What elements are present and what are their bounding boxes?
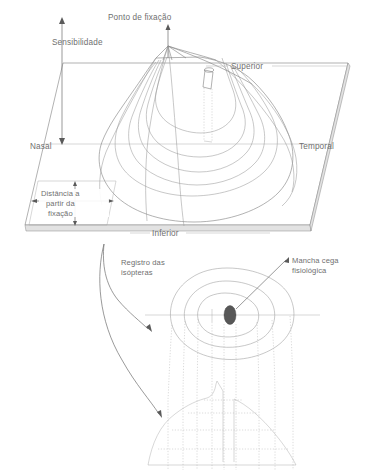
hill-meridian-center [146, 46, 168, 221]
blind-spot-leader-head [284, 257, 289, 263]
hill-meridian-front [168, 46, 184, 226]
projection-line-7 [257, 322, 259, 470]
hill-contour-4 [129, 60, 265, 185]
projection-line-3 [197, 319, 198, 470]
nasal-label: Nasal [30, 142, 52, 151]
projection-lines [168, 316, 293, 470]
isopter-record-label-group: Registro das isópteras [121, 258, 165, 277]
temporal-label: Temporal [299, 142, 334, 151]
profile-left-curve [148, 381, 217, 465]
projection-line-9 [290, 316, 293, 470]
connector-arrow-upper-curve [103, 244, 148, 329]
superior-label: Superior [231, 62, 263, 71]
distance-label-line3: fixação [48, 209, 73, 218]
isopter-record-label-line2: isópteras [121, 268, 153, 277]
projection-line-8 [272, 320, 275, 470]
blind-spot-leader-line [236, 260, 286, 309]
hill-contour-1 [155, 57, 235, 133]
inferior-label: Inferior [152, 229, 179, 238]
fixation-point-label: Ponto de fixação [108, 13, 172, 22]
connector-arrow-lower-head [157, 410, 162, 418]
profile-right-curve [234, 399, 296, 465]
fixation-point-marker: Ponto de fixação [108, 13, 172, 58]
sensitivity-label: Sensibilidade [52, 38, 103, 47]
hill-contour-3 [138, 60, 254, 172]
nasal-label-group: Nasal [30, 142, 52, 151]
blind-spot-label-line2: fisiológica [292, 266, 327, 275]
physiological-blind-spot [224, 306, 236, 325]
figure-root: Sensibilidade Ponto de fixação [0, 0, 369, 476]
projection-line-1 [168, 325, 172, 470]
isopter-record-label-line1: Registro das [121, 258, 165, 267]
distance-label-line1: Distância a [41, 189, 80, 198]
fixation-point-arrow [166, 24, 171, 30]
hill-surface [99, 46, 297, 226]
hill-outer-contour [99, 57, 293, 222]
profile-peak-notch [217, 381, 223, 399]
sensitivity-axis: Sensibilidade [52, 17, 103, 145]
hill-blind-spot-notch [203, 68, 214, 142]
hill-of-vision-figure: Sensibilidade Ponto de fixação [0, 0, 369, 476]
hill-peak-ridge [168, 46, 216, 60]
bottom-diagram-group: Registro das isópteras Mancha cega fisio… [121, 256, 339, 470]
top-diagram-group: Sensibilidade Ponto de fixação [25, 13, 350, 238]
temporal-label-group: Temporal [299, 142, 334, 151]
blind-spot-label-line1: Mancha cega [292, 256, 339, 265]
distance-from-fixation-panel: Distância a partir da fixação [29, 181, 116, 226]
hill-meridian-right [216, 60, 294, 192]
hill-right-fold [252, 84, 297, 206]
distance-arrow-up [73, 181, 77, 186]
profile-section [148, 381, 296, 465]
blind-spot-drop-base [204, 141, 212, 142]
blind-spot-pit [203, 70, 213, 89]
sensitivity-axis-arrow-up [59, 17, 65, 24]
distance-label-line2: partir da [46, 199, 75, 208]
